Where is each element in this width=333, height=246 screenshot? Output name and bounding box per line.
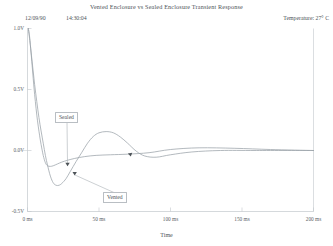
callout-arrow-sealed (65, 163, 69, 167)
callout-leader-sealed (67, 122, 68, 166)
chart-page: Vented Enclosure vs Sealed Enclosure Tra… (0, 0, 333, 246)
trace-sealed (28, 29, 313, 167)
callout-vented: Vented (103, 192, 127, 203)
x-tick-label: 150 ms (234, 216, 249, 222)
x-axis-title: Time (0, 232, 333, 238)
y-tick-label: 1.0V (14, 25, 25, 31)
callout-arrow-vented (72, 172, 76, 176)
x-tick-label: 200 ms (306, 216, 321, 222)
x-tick-label: 0 ms (22, 216, 32, 222)
x-tick-label: 50 ms (93, 216, 106, 222)
y-tick-label: -0.5V (12, 208, 24, 214)
marker-arrow-settle (128, 153, 132, 157)
trace-vented (28, 29, 313, 186)
y-tick-label: 0.5V (14, 86, 25, 92)
x-tick-label: 100 ms (163, 216, 178, 222)
callout-sealed: Sealed (55, 112, 78, 123)
transient-response-plot: 1.0V0.5V0.0V-0.5V0 ms50 ms100 ms150 ms20… (0, 0, 333, 246)
callout-leader-vented (75, 175, 115, 193)
